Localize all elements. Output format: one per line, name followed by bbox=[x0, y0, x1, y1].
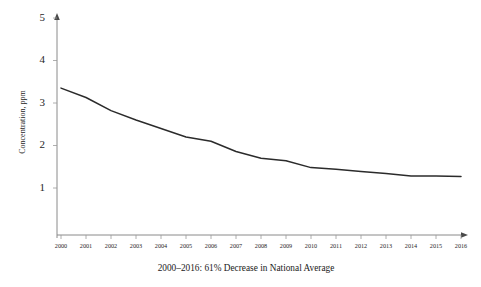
x-tick-label: 2015 bbox=[430, 242, 442, 249]
y-tick-label: 4 bbox=[40, 53, 46, 65]
x-axis-tick-labels: 2000 2001 2002 2003 2004 2005 2006 2007 … bbox=[55, 242, 467, 249]
y-tick-label: 2 bbox=[40, 138, 46, 150]
x-tick-label: 2010 bbox=[305, 242, 317, 249]
x-tick-label: 2009 bbox=[280, 242, 292, 249]
y-tick-label: 5 bbox=[40, 11, 46, 23]
x-tick-label: 2013 bbox=[380, 242, 392, 249]
data-series-line bbox=[61, 88, 461, 176]
x-tick-label: 2011 bbox=[330, 242, 342, 249]
x-tick-label: 2000 bbox=[55, 242, 67, 249]
chart-figure: Concentration, ppm 5 4 3 2 1 bbox=[0, 0, 481, 287]
x-tick-label: 2014 bbox=[405, 242, 417, 249]
x-axis-arrow-icon bbox=[461, 232, 468, 238]
x-tick-label: 2016 bbox=[455, 242, 467, 249]
y-axis-tick-labels: 5 4 3 2 1 bbox=[40, 11, 46, 193]
x-tick-label: 2008 bbox=[255, 242, 267, 249]
x-tick-label: 2003 bbox=[130, 242, 142, 249]
y-tick-label: 1 bbox=[40, 181, 46, 193]
x-tick-label: 2006 bbox=[205, 242, 217, 249]
line-chart-canvas: Concentration, ppm 5 4 3 2 1 bbox=[0, 0, 481, 287]
y-axis-title: Concentration, ppm bbox=[18, 89, 27, 153]
x-tick-label: 2007 bbox=[230, 242, 242, 249]
x-tick-label: 2002 bbox=[105, 242, 117, 249]
y-axis-arrow-icon bbox=[54, 13, 60, 20]
x-axis-ticks bbox=[61, 235, 461, 239]
chart-caption: 2000–2016: 61% Decrease in National Aver… bbox=[158, 263, 335, 273]
y-tick-label: 3 bbox=[40, 96, 46, 108]
x-tick-label: 2005 bbox=[180, 242, 192, 249]
x-tick-label: 2012 bbox=[355, 242, 367, 249]
x-tick-label: 2001 bbox=[80, 242, 92, 249]
y-axis-ticks bbox=[53, 18, 57, 188]
x-tick-label: 2004 bbox=[155, 242, 167, 249]
